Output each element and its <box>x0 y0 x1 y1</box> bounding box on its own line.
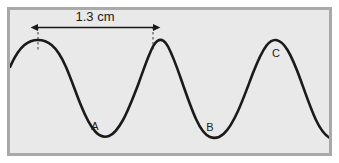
point-label-a: A <box>91 120 99 132</box>
wave-curve <box>10 40 329 138</box>
point-label-b: B <box>206 121 213 133</box>
wave-plot: 1.3 cm A B C <box>10 10 329 153</box>
wave-diagram-figure: 1.3 cm A B C <box>0 0 339 163</box>
point-label-c: C <box>272 47 280 59</box>
wavelength-label: 1.3 cm <box>75 10 114 24</box>
wave-diagram-panel: 1.3 cm A B C <box>7 7 332 156</box>
